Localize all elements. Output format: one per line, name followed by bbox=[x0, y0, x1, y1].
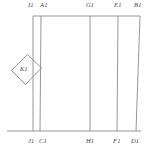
vertical-line-b1-d1 bbox=[136, 16, 140, 131]
vertical-line-a1-c1 bbox=[40, 16, 41, 131]
label-j1: J1 bbox=[28, 138, 34, 145]
label-g1: G1 bbox=[86, 2, 94, 9]
vertical-line-e1-f1 bbox=[117, 16, 118, 131]
label-f1: F1 bbox=[113, 138, 121, 145]
label-i1: I1 bbox=[28, 2, 34, 9]
label-k1: K1 bbox=[20, 66, 27, 72]
label-b1: B1 bbox=[134, 2, 142, 9]
label-d1: D1 bbox=[131, 138, 139, 145]
diagram-canvas bbox=[0, 0, 150, 151]
technical-diagram: I1 A1 G1 E1 B1 J1 C1 H1 F1 D1 K1 bbox=[0, 0, 150, 151]
label-c1: C1 bbox=[39, 138, 47, 145]
label-h1: H1 bbox=[86, 138, 94, 145]
label-e1: E1 bbox=[114, 2, 122, 9]
label-a1: A1 bbox=[40, 2, 48, 9]
